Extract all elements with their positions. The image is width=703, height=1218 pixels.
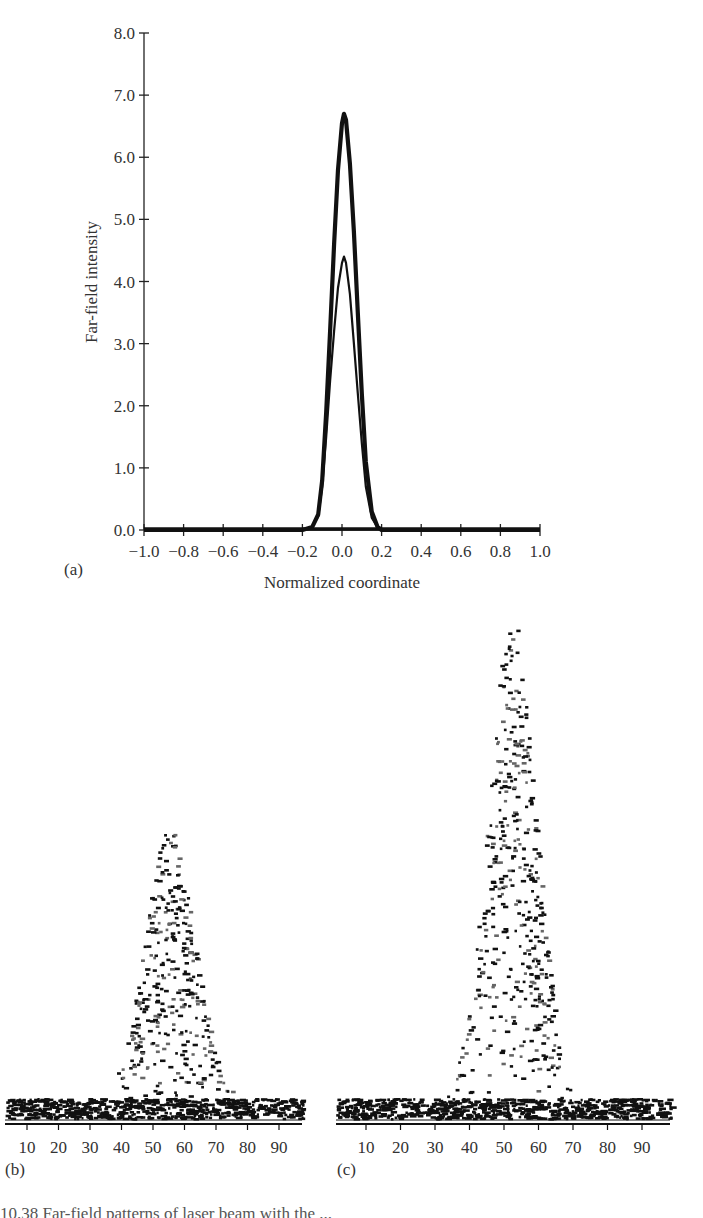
panel-a-series [144,114,540,530]
panel-label-a: (a) [64,560,83,580]
x-tick-label: 0.8 [490,542,511,561]
x-tick-label: 70 [208,1138,225,1157]
x-tick-label: 50 [145,1138,162,1157]
x-tick-label: 10 [19,1138,36,1157]
x-tick-label: 1.0 [529,542,550,561]
y-tick-label: 7.0 [114,86,135,105]
x-tick-label: 20 [50,1138,67,1157]
x-tick-label: 60 [530,1138,547,1157]
panel-label-b: (b) [5,1160,25,1180]
y-tick-label: 5.0 [114,210,135,229]
x-tick-label: 90 [271,1138,288,1157]
x-tick-label: 20 [392,1138,409,1157]
panel-a-x-tick-labels: −1.0−0.8−0.6−0.4−0.20.00.20.40.60.81.0 [129,542,551,561]
x-tick-label: 70 [565,1138,582,1157]
y-tick-label: 1.0 [114,459,135,478]
panel-c-x-axis: 102030405060708090 [336,1120,670,1157]
figure: 0.01.02.03.04.05.06.07.08.0 −1.0−0.8−0.6… [0,0,703,1218]
panel-b-scatter: 102030405060708090 [5,834,306,1157]
x-tick-label: −1.0 [129,542,160,561]
y-tick-label: 8.0 [114,24,135,43]
panel-b-x-axis: 102030405060708090 [5,1120,302,1157]
panel-a-line-chart: 0.01.02.03.04.05.06.07.08.0 −1.0−0.8−0.6… [82,24,551,592]
panel-c-speckle-points [336,630,677,1121]
x-tick-label: −0.6 [208,542,239,561]
y-tick-label: 3.0 [114,335,135,354]
inner-profile-line [144,257,540,530]
x-tick-label: 50 [496,1138,513,1157]
x-axis-title: Normalized coordinate [264,573,420,592]
x-tick-label: 80 [599,1138,616,1157]
x-tick-label: 80 [239,1138,256,1157]
y-tick-label: 2.0 [114,397,135,416]
panel-b-speckle-points [6,834,307,1121]
panel-a-y-tick-labels: 0.01.02.03.04.05.06.07.08.0 [114,24,135,540]
x-tick-label: 40 [113,1138,130,1157]
x-tick-label: 60 [176,1138,193,1157]
y-tick-label: 4.0 [114,273,135,292]
panel-label-c: (c) [337,1160,356,1180]
x-tick-label: 40 [461,1138,478,1157]
x-tick-label: 0.6 [450,542,471,561]
y-axis-title: Far-field intensity [82,221,101,343]
x-tick-label: −0.8 [168,542,199,561]
y-tick-label: 6.0 [114,148,135,167]
x-tick-label: −0.2 [287,542,318,561]
x-tick-label: 90 [634,1138,651,1157]
outer-profile-line [144,114,540,530]
x-tick-label: 30 [427,1138,444,1157]
x-tick-label: 30 [82,1138,99,1157]
x-tick-label: −0.4 [247,542,278,561]
y-tick-label: 0.0 [114,521,135,540]
x-tick-label: 0.2 [371,542,392,561]
panel-c-scatter: 102030405060708090 [336,630,677,1157]
x-tick-label: 10 [358,1138,375,1157]
x-tick-label: 0.0 [331,542,352,561]
figure-caption: 10.38 Far-field patterns of laser beam w… [0,1204,332,1218]
x-tick-label: 0.4 [411,542,433,561]
